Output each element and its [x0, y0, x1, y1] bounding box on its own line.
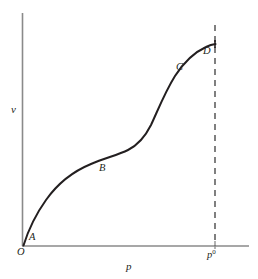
curve-point-label-b: B	[99, 163, 105, 174]
curve-point-label-c: C	[176, 62, 183, 73]
caption-strip	[0, 268, 258, 279]
y-axis-label: v	[11, 104, 16, 115]
x-axis-tick-label-p0: p0	[207, 250, 216, 261]
origin-label: O	[17, 247, 25, 258]
data-curve	[24, 44, 216, 246]
curve-point-label-a: A	[29, 232, 35, 243]
tick-label-superscript: 0	[212, 248, 216, 256]
plot-canvas	[0, 0, 258, 279]
curve-point-label-d: D	[203, 46, 211, 57]
figure-container: v p O A B C D p0	[0, 0, 258, 279]
